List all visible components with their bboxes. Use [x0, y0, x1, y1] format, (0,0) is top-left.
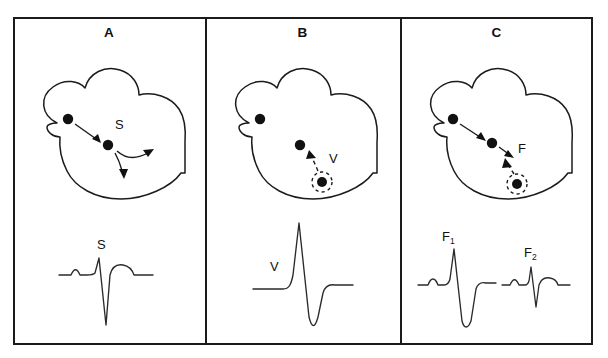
impulse-label-v: V [329, 151, 338, 166]
av-node-dot [295, 140, 305, 150]
sa-node-dot [448, 114, 458, 124]
ecg-trace-sinus [59, 258, 153, 325]
ecg-trace-ventricular [253, 223, 353, 326]
panel-a: A S S [13, 17, 205, 345]
sa-node-dot [63, 114, 73, 124]
ecg-trace-fusion-1 [418, 249, 496, 327]
panel-b-heart-diagram: V [205, 47, 400, 227]
panel-c: C F F1 [400, 17, 593, 345]
panel-a-letter: A [13, 25, 205, 40]
panel-a-ecg: S [13, 213, 205, 345]
arrowhead-sa-to-av [476, 132, 486, 141]
heart-outline [236, 69, 378, 199]
heart-outline [431, 69, 573, 199]
ecg-label-f1: F1 [442, 229, 455, 246]
arrowhead-apex [119, 169, 128, 179]
arrowhead-sa-to-av [92, 134, 101, 143]
panel-c-heart-diagram: F [400, 47, 593, 227]
arrowhead-ectopic [502, 158, 512, 168]
ecg-label-f2: F2 [524, 245, 537, 262]
av-node-dot [103, 140, 113, 150]
panel-b-letter: B [205, 25, 400, 40]
arrowhead-ectopic [306, 150, 316, 159]
ecg-label-s: S [97, 237, 106, 252]
heart-outline [44, 69, 186, 199]
panel-b: B V V [205, 17, 400, 345]
impulse-label-s: S [115, 117, 124, 132]
arrowhead-lateral [143, 149, 154, 157]
ecg-label-v: V [270, 259, 279, 274]
sa-node-dot [255, 114, 265, 124]
impulse-label-f: F [518, 141, 526, 156]
ectopic-focus-dot [317, 177, 327, 187]
ectopic-focus-dot [512, 179, 522, 189]
av-node-dot [487, 138, 497, 148]
figure-root: A S S [0, 0, 608, 358]
panel-c-letter: C [400, 25, 593, 40]
panel-c-ecg: F1 F2 [400, 213, 593, 345]
panel-a-heart-diagram: S [13, 47, 205, 227]
panel-b-ecg: V [205, 213, 400, 345]
ecg-trace-fusion-2 [502, 267, 570, 307]
